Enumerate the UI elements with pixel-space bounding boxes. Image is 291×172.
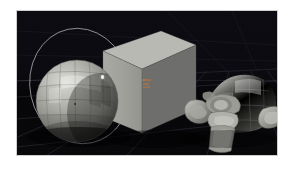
floor-shadow: [17, 11, 277, 155]
viewport-frame: [16, 10, 278, 156]
screenshot-root: [0, 0, 291, 172]
3d-viewport[interactable]: [17, 11, 277, 155]
